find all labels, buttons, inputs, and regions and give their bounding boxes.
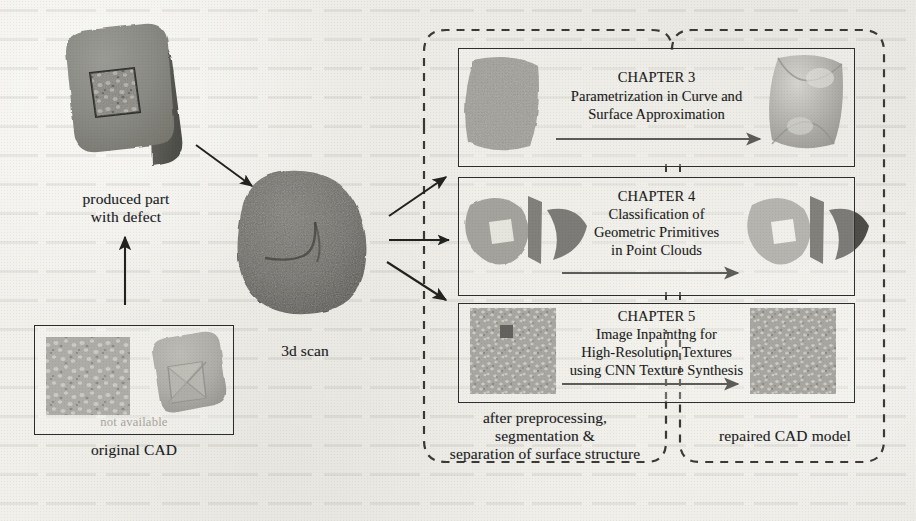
- produced-part-caption-line-2: with defect: [36, 208, 216, 226]
- right-group-caption: repaired CAD model: [690, 427, 880, 445]
- chapter-3-box[interactable]: CHAPTER 3 Parametrization in Curve and S…: [458, 48, 855, 167]
- chapter-5-title-line-3: using CNN Texture Synthesis: [459, 362, 854, 379]
- chapter-4-box[interactable]: CHAPTER 4 Classification of Geometric Pr…: [458, 177, 855, 296]
- produced-part-caption-line-1: produced part: [36, 190, 216, 208]
- chapter-4-title-line-2: Geometric Primitives: [459, 224, 854, 241]
- left-group-caption-line-3: separation of surface structure: [420, 445, 670, 463]
- chapter-5-title-line-2: High-Resolution Textures: [459, 344, 854, 361]
- original-cad-frame[interactable]: not available: [34, 325, 234, 435]
- chapter-5-box[interactable]: CHAPTER 5 Image Inpainting for High-Reso…: [458, 303, 855, 403]
- chapter-4-number: CHAPTER 4: [459, 188, 854, 205]
- scan-caption: 3d scan: [250, 342, 360, 360]
- chapter-5-number: CHAPTER 5: [459, 308, 854, 325]
- produced-part-illustration: [66, 24, 182, 166]
- arrow-part-to-scan: [196, 145, 252, 186]
- chapter-3-title-line-1: Parametrization in Curve and: [459, 88, 854, 105]
- chapter-3-number: CHAPTER 3: [459, 69, 854, 86]
- chapter-4-title-line-3: in Point Clouds: [459, 242, 854, 259]
- chapter-5-title-line-1: Image Inpainting for: [459, 326, 854, 343]
- not-available-label: not available: [35, 415, 233, 430]
- original-cad-caption: original CAD: [36, 441, 232, 459]
- chapter-4-title-line-1: Classification of: [459, 206, 854, 223]
- arrow-scan-to-chapter3: [389, 177, 446, 216]
- diagram-stage: CHAPTER 3 Parametrization in Curve and S…: [0, 0, 916, 521]
- scan-illustration: [238, 171, 367, 314]
- chapter-3-title-line-2: Surface Approximation: [459, 106, 854, 123]
- left-group-caption-line-2: segmentation &: [426, 427, 664, 445]
- left-group-caption-line-1: after preprocessing,: [426, 409, 664, 427]
- arrow-scan-to-chapter5: [387, 262, 446, 300]
